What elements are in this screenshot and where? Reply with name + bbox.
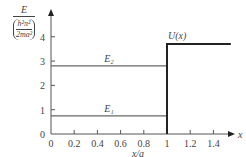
y-axis-arrow-icon [48,9,54,16]
y-tick-label: 0 [40,129,45,140]
potential-step-line [167,44,231,134]
y-tick-label: 1 [40,105,45,116]
x-axis-title: x/a [131,148,144,157]
y-tick-label: 4 [40,32,45,43]
x-tick-label: 1.2 [184,138,197,149]
x-tick-label: 1 [165,138,170,149]
energy-label-e2: E₂ [103,53,114,64]
x-tick-label: 0 [49,138,54,149]
y-tick-label: 2 [40,80,45,91]
energy-label-e1: E₁ [103,103,114,114]
x-axis-arrow-icon [228,131,235,137]
x-axis-end-label: x [237,129,243,140]
y-tick-label: 3 [40,56,45,67]
x-tick-label: 0.6 [114,138,127,149]
x-tick-label: 0.2 [68,138,81,149]
x-tick-label: 0.4 [91,138,104,149]
potential-label: U(x) [168,30,187,42]
energy-diagram: 0123400.20.40.60.811.21.4 xx/aE₁E₂U(x) [0,0,246,157]
x-tick-label: 1.4 [207,138,220,149]
